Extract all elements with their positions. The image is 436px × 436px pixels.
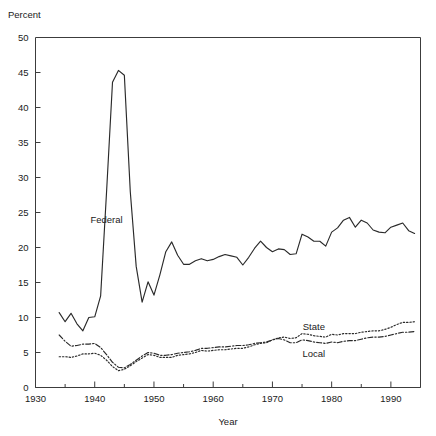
x-axis-tick-labels: 1930194019501960197019801990 [25,393,402,404]
x-tick-label: 1930 [25,393,46,404]
y-tick-label: 0 [23,382,28,393]
x-tick-label: 1950 [143,393,164,404]
chart-container: 05101520253035404550 1930194019501960197… [0,0,436,436]
y-tick-label: 5 [23,347,28,358]
y-axis-tick-labels: 05101520253035404550 [18,32,29,393]
y-tick-label: 35 [18,137,29,148]
y-tick-label: 50 [18,32,29,43]
series-line-local [59,332,414,368]
y-axis-title: Percent [8,9,41,20]
x-axis-title: Year [218,416,237,427]
x-tick-label: 1990 [380,393,401,404]
x-tick-label: 1980 [321,393,342,404]
plot-frame [36,38,421,388]
plot-border [36,38,421,388]
y-tick-label: 45 [18,67,29,78]
series-line-state [59,322,414,371]
x-tick-label: 1940 [84,393,105,404]
y-tick-label: 40 [18,102,29,113]
y-tick-label: 15 [18,277,29,288]
y-tick-label: 10 [18,312,29,323]
x-axis-tick-marks [36,382,421,388]
x-tick-label: 1970 [262,393,283,404]
y-axis-tick-marks [36,73,41,388]
series-label-state: State [303,321,325,332]
x-tick-label: 1960 [203,393,224,404]
y-tick-label: 25 [18,207,29,218]
y-tick-label: 30 [18,172,29,183]
percent-by-government-level-line-chart: 05101520253035404550 1930194019501960197… [0,0,436,436]
series-annotation-labels: FederalStateLocal [90,214,325,359]
series-label-federal: Federal [90,214,122,225]
series-label-local: Local [303,348,326,359]
series-line-federal [59,70,414,330]
y-tick-label: 20 [18,242,29,253]
